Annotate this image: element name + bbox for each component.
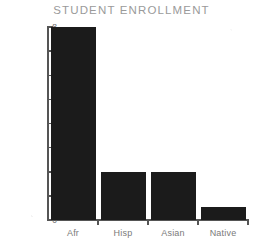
bar-afr	[51, 27, 96, 220]
bar-hisp	[101, 172, 146, 220]
x-tick-afr	[97, 220, 99, 225]
x-label-afr: Afr	[67, 228, 79, 238]
x-label-asian: Asian	[161, 228, 185, 238]
x-label-native: Native	[210, 228, 237, 238]
x-tick-hisp	[147, 220, 149, 225]
chart-title: STUDENT ENROLLMENT	[0, 4, 263, 16]
x-label-hisp: Hisp	[114, 228, 133, 238]
plot-area	[48, 27, 248, 220]
bar-native	[201, 207, 246, 220]
x-tick-asian	[197, 220, 199, 225]
x-tick-native	[247, 220, 249, 225]
bar-asian	[151, 172, 196, 220]
